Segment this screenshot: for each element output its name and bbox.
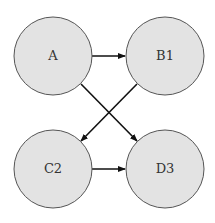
node-a: A — [14, 17, 92, 95]
node-d3: D3 — [126, 130, 204, 208]
edges — [81, 56, 137, 169]
node-c2-label: C2 — [44, 161, 62, 176]
graph-diagram: A B1 C2 D3 — [0, 0, 215, 223]
node-b1: B1 — [126, 17, 204, 95]
node-c2: C2 — [14, 130, 92, 208]
node-a-label: A — [47, 48, 58, 63]
node-d3-label: D3 — [156, 161, 175, 176]
node-b1-label: B1 — [156, 48, 174, 63]
